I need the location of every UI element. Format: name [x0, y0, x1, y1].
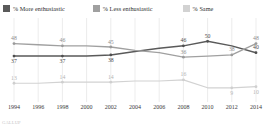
data-point — [230, 54, 233, 57]
legend-swatch-less-enthusiastic — [93, 5, 100, 12]
data-label: 37 — [11, 58, 17, 64]
data-point — [109, 81, 112, 84]
legend-swatch-more-enthusiastic — [3, 5, 10, 12]
data-label: 37 — [60, 58, 66, 64]
data-point — [182, 78, 185, 81]
data-label: 10 — [253, 89, 259, 95]
data-label: 46 — [60, 37, 66, 43]
x-axis-tick-label: 2010 — [202, 104, 214, 110]
data-label: 48 — [11, 35, 17, 41]
data-label: 40 — [253, 44, 259, 50]
data-label: 14 — [108, 74, 114, 80]
x-axis-tick-label: 2012 — [226, 104, 238, 110]
data-label: 36 — [181, 49, 187, 55]
data-point — [61, 55, 64, 58]
x-axis-tick-label: 2004 — [129, 104, 141, 110]
data-label: 16 — [181, 71, 187, 77]
legend-item-same[interactable]: % Same — [183, 0, 214, 16]
chart-container: % More enthusiastic % Less enthusiastic … — [0, 0, 266, 132]
data-point — [182, 56, 185, 59]
x-axis-tick-label: 2002 — [105, 104, 117, 110]
data-point — [206, 40, 209, 43]
gridlines — [14, 18, 256, 102]
data-point — [230, 86, 233, 89]
data-point — [109, 46, 112, 49]
x-axis-tick-label: 1998 — [56, 104, 68, 110]
source-attribution: GALLUP — [2, 120, 21, 125]
plot-area: 37373846504048464536384813141416910 — [0, 16, 266, 116]
x-axis-tick-label: 2000 — [81, 104, 93, 110]
legend-item-less-enthusiastic[interactable]: % Less enthusiastic — [93, 0, 153, 16]
data-label: 46 — [181, 37, 187, 43]
x-axis-tick-label: 2008 — [177, 104, 189, 110]
data-point — [61, 44, 64, 47]
x-axis-tick-label: 1994 — [8, 104, 20, 110]
data-point — [61, 81, 64, 84]
data-label: 13 — [11, 75, 17, 81]
data-point — [109, 54, 112, 57]
x-axis-tick-label: 2014 — [250, 104, 262, 110]
data-label: 50 — [205, 33, 211, 39]
data-label: 38 — [229, 46, 235, 52]
data-point — [182, 44, 185, 47]
legend-label-less-enthusiastic: % Less enthusiastic — [103, 5, 153, 12]
data-label: 14 — [60, 74, 66, 80]
chart-svg: 37373846504048464536384813141416910 — [0, 16, 266, 116]
data-label: 9 — [230, 90, 233, 96]
data-point — [13, 82, 16, 85]
legend-label-same: % Same — [193, 5, 214, 12]
data-point — [255, 85, 258, 88]
legend-item-more-enthusiastic[interactable]: % More enthusiastic — [3, 0, 65, 16]
x-axis-tick-label: 2006 — [153, 104, 165, 110]
data-point — [13, 42, 16, 45]
data-label: 48 — [253, 35, 259, 41]
x-axis-tick-label: 1996 — [32, 104, 44, 110]
data-label: 45 — [108, 39, 114, 45]
x-axis: 1994199619982000200220042006200820102012… — [0, 104, 266, 116]
data-label: 38 — [108, 57, 114, 63]
data-point — [255, 51, 258, 54]
chart-legend: % More enthusiastic % Less enthusiastic … — [0, 0, 266, 16]
legend-swatch-same — [183, 5, 190, 12]
legend-label-more-enthusiastic: % More enthusiastic — [13, 5, 65, 12]
data-point — [13, 55, 16, 58]
